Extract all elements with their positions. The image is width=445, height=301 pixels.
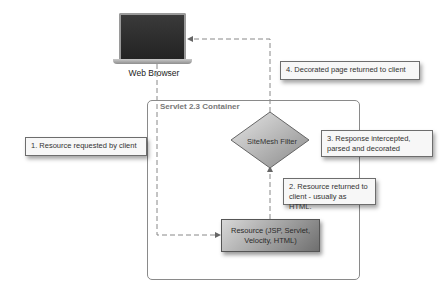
step4-note: 4. Decorated page returned to client bbox=[280, 61, 420, 80]
resource-line2: Velocity, HTML) bbox=[222, 236, 319, 246]
step3-line2: parsed and decorated bbox=[327, 144, 427, 154]
resource-box: Resource (JSP, Servlet, Velocity, HTML) bbox=[221, 219, 320, 252]
step2-line1: 2. Resource returned to bbox=[289, 182, 370, 192]
step3-note: 3. Response intercepted, parsed and deco… bbox=[321, 130, 433, 157]
step2-note: 2. Resource returned to client - usually… bbox=[283, 178, 376, 205]
laptop-base bbox=[113, 59, 192, 64]
resource-line1: Resource (JSP, Servlet, bbox=[222, 226, 319, 236]
web-browser-label: Web Browser bbox=[115, 68, 193, 78]
step2-line2: client - usually as HTML. bbox=[289, 192, 370, 212]
sitemesh-filter-label: SiteMesh Filter bbox=[232, 137, 312, 146]
step1-note: 1. Resource requested by client bbox=[25, 137, 147, 156]
laptop-icon bbox=[119, 13, 186, 59]
container-title: Servlet 2.3 Container bbox=[160, 102, 240, 111]
step3-line1: 3. Response intercepted, bbox=[327, 134, 427, 144]
